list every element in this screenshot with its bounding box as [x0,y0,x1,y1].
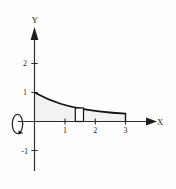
y-axis-arrow-icon [31,27,39,40]
x-axis-label: X [157,117,163,127]
representative-strip [75,108,83,122]
x-tick-label-3: 3 [124,126,128,135]
x-tick-label-2: 2 [93,126,97,135]
y-tick-label-1: 1 [23,88,27,97]
revolution-ellipse-icon [12,114,22,133]
x-axis-arrow-icon [146,117,157,125]
y-tick-label-2: 2 [23,59,27,68]
y-axis-label: Y [32,15,38,25]
figure-container: X Y 1 2 -1 1 2 3 [0,0,176,189]
math-figure: X Y 1 2 -1 1 2 3 [0,0,176,189]
x-tick-label-1: 1 [63,126,67,135]
y-tick-label-minus-1: -1 [21,147,28,156]
